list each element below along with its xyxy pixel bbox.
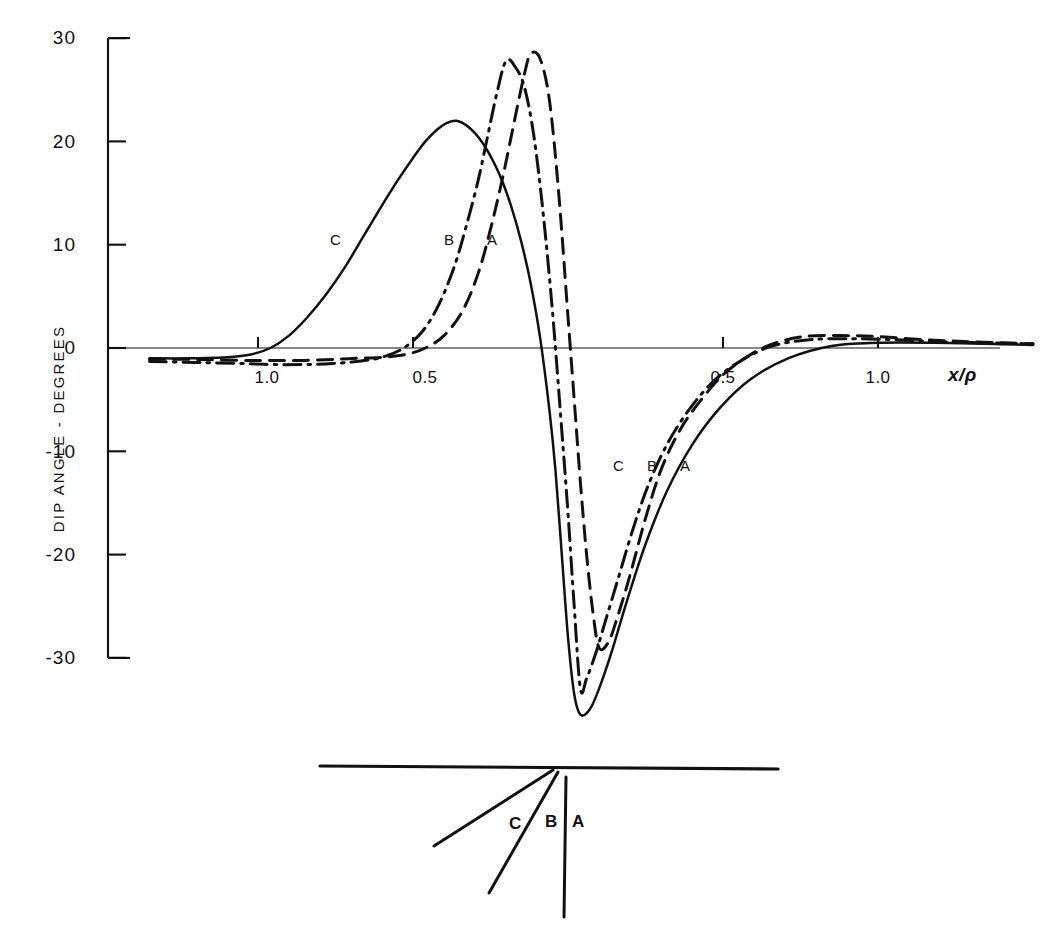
y-tick-neg30: -30 [20,647,76,669]
curve-label-lower-a: A [680,457,691,474]
x-axis-title: x/ρ [948,364,977,386]
curve-label-upper-b: B [444,231,455,248]
inset-label-c: C [509,814,522,834]
y-tick-30: 30 [20,27,76,49]
inset-label-b: B [545,812,558,832]
x-tick-right-1: 1.0 [848,368,908,388]
x-tick-left-1: 1.0 [237,368,297,388]
figure-panel: DIP ANGLE - DEGREES 30 20 10 0 -10 -20 -… [0,0,1040,935]
inset-sheet-a [564,777,566,917]
y-tick-0: 0 [20,337,76,359]
curve-label-upper-a: A [487,231,498,248]
y-tick-neg10: -10 [20,441,76,463]
curve-a [150,52,1034,650]
curve-c [150,121,1034,716]
inset-label-a: A [572,812,585,832]
curve-label-lower-c: C [613,457,624,474]
curve-label-upper-c: C [330,231,341,248]
dip-angle-plot [0,0,1040,935]
curve-label-lower-b: B [647,457,658,474]
inset-diagram [320,766,778,917]
inset-sheet-c [434,770,553,846]
x-tick-left-0point5: 0.5 [395,368,455,388]
x-tick-right-0point5: 0.5 [693,368,753,388]
y-tick-10: 10 [20,234,76,256]
y-tick-neg20: -20 [20,544,76,566]
inset-surface-line [320,766,778,769]
y-tick-20: 20 [20,131,76,153]
